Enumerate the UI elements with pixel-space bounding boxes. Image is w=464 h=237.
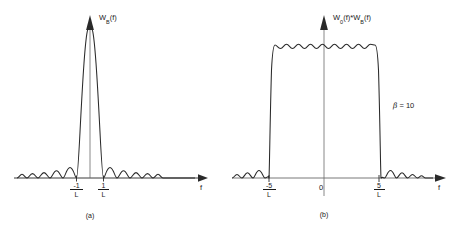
xtick-label-pos-b: 5 L [368, 182, 390, 198]
origin-label-b: 0 [319, 183, 323, 192]
y-axis-label-a-sub: B [106, 19, 110, 25]
xtick-label-neg-a-num: -1 [70, 182, 83, 190]
y-axis-arrow-a [86, 15, 94, 30]
beta-value: = 10 [397, 101, 414, 110]
spectrum-curve-a [17, 27, 195, 179]
panel-b: W0(f)*WB(f) f 0 β = 10 -5 L 5 L (b) [232, 0, 464, 237]
xtick-label-neg-b: -5 L [258, 182, 280, 198]
panel-b-plot [232, 0, 464, 237]
xtick-label-pos-b-den: L [368, 190, 390, 198]
x-axis-label-a: f [200, 184, 202, 192]
beta-annotation-b: β = 10 [393, 101, 414, 110]
y-axis-arrow-b [320, 15, 328, 30]
xtick-label-neg-a: -1 L [66, 182, 88, 198]
y-axis-label-a-tail: (f) [110, 13, 117, 22]
x-axis-arrow-a [198, 174, 208, 182]
xtick-label-neg-b-num: -5 [263, 182, 276, 190]
window-spectra-figure: WB(f) f -1 L 1 L (a) [0, 0, 464, 237]
y-axis-label-b-tail: (f) [364, 13, 371, 22]
xtick-label-pos-a-num: 1 [98, 182, 109, 190]
xtick-label-pos-a: 1 L [93, 182, 115, 198]
y-axis-label-b: W0(f)*WB(f) [333, 14, 371, 24]
xtick-label-pos-a-den: L [93, 190, 115, 198]
y-axis-label-a: WB(f) [99, 14, 117, 24]
panel-a-caption: (a) [70, 212, 110, 219]
panel-b-caption: (b) [304, 211, 344, 218]
y-axis-label-b-mid: (f)*W [343, 13, 360, 22]
panel-a-plot [0, 0, 232, 237]
x-axis-arrow-b [435, 174, 446, 182]
x-axis-label-b: f [438, 184, 440, 192]
y-axis-label-b-sub: 0 [340, 19, 343, 25]
spectrum-curve-b [232, 44, 433, 178]
xtick-label-pos-b-num: 5 [374, 182, 385, 190]
xtick-label-neg-b-den: L [258, 190, 280, 198]
y-axis-label-b-sub2: B [360, 19, 364, 25]
panel-a: WB(f) f -1 L 1 L (a) [0, 0, 232, 237]
xtick-label-neg-a-den: L [66, 190, 88, 198]
